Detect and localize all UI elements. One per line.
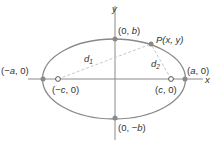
vertex-left-label: (−a, 0) [1,65,29,76]
focus-left-point [56,77,61,82]
ellipse-diagram: y x (0, b) P(x, y) (−a, 0) (a, 0) (−c, 0… [0,0,222,147]
focus-right-label: (c, 0) [155,84,177,95]
covertex-top-label: (0, b) [118,25,140,36]
covertex-bottom-label: (0, −b) [118,122,146,133]
d2-label: d2 [151,58,160,70]
diagram-canvas: y x (0, b) P(x, y) (−a, 0) (a, 0) (−c, 0… [0,0,222,147]
vertex-right-point [183,77,188,82]
covertex-bottom-point [113,116,118,121]
focus-right-point [169,77,174,82]
focus-left-label: (−c, 0) [52,84,79,95]
vertex-left-point [41,77,46,82]
point-p [149,42,154,47]
d1-label: d1 [84,53,93,65]
point-p-label: P(x, y) [156,34,183,45]
covertex-top-point [113,37,118,42]
y-axis-label: y [111,3,118,14]
vertex-right-label: (a, 0) [187,65,209,76]
d1-line [58,44,151,79]
